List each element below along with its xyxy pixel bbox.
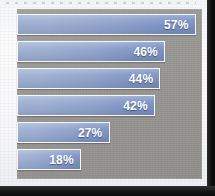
bar-3[interactable]: 42% [17, 95, 155, 116]
scan-edge-bottom [0, 186, 215, 196]
bar-value-label-4: 27% [78, 126, 109, 140]
table-row: 46% [17, 41, 202, 62]
scanned-page: 57% 46% 44% [0, 0, 207, 188]
bar-value-label-2: 44% [129, 72, 160, 86]
bar-value-label-3: 42% [123, 99, 154, 113]
table-row: 42% [17, 95, 202, 116]
bar-value-label-5: 18% [49, 153, 80, 167]
bar-5[interactable]: 18% [17, 149, 81, 170]
bar-1[interactable]: 46% [17, 41, 165, 62]
scan-edge-right [207, 0, 215, 196]
bar-value-label-0: 57% [164, 18, 195, 32]
screenshot-root: 57% 46% 44% [0, 0, 215, 196]
dashed-rule [6, 2, 196, 4]
bar-0[interactable]: 57% [17, 14, 196, 35]
bar-value-label-1: 46% [133, 45, 164, 59]
chart-plot-area: 57% 46% 44% [17, 9, 202, 179]
table-row: 44% [17, 68, 202, 89]
table-row: 57% [17, 14, 202, 35]
table-row: 27% [17, 122, 202, 143]
bar-2[interactable]: 44% [17, 68, 160, 89]
table-row: 18% [17, 149, 202, 170]
bar-group: 57% 46% 44% [17, 14, 202, 179]
bar-4[interactable]: 27% [17, 122, 110, 143]
